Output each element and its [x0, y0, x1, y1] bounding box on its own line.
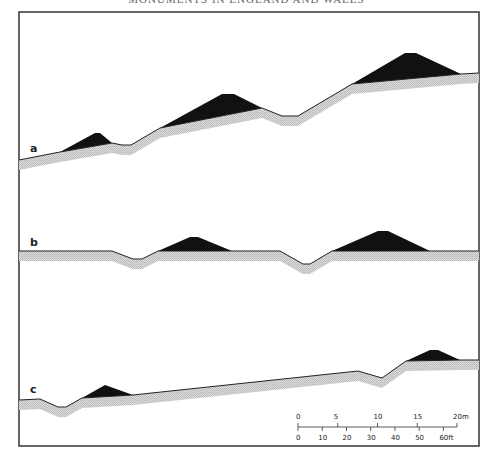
scale-metric-label: 5 [334, 413, 338, 421]
subsoil-band [19, 251, 479, 274]
mound [332, 231, 430, 251]
panel-label-a: a [30, 142, 37, 155]
scale-imperial-label: 50 [415, 434, 424, 442]
scale-imperial-label: 30 [367, 434, 376, 442]
subsoil-band [19, 360, 479, 417]
scale-metric-label: 20m [453, 413, 469, 421]
mound [406, 350, 460, 361]
scale-imperial-label: 0 [296, 434, 300, 442]
scale-imperial-label: 40 [391, 434, 400, 442]
panel-label-b: b [30, 236, 38, 249]
panel-c [19, 350, 479, 417]
panel-b [19, 231, 479, 274]
subsoil-band [19, 73, 479, 170]
mound [158, 237, 232, 251]
scale-bar: 05101520m0102030405060ft [296, 413, 469, 442]
scale-imperial-label: 10 [318, 434, 327, 442]
panel-a [19, 53, 479, 170]
scale-metric-label: 0 [296, 413, 300, 421]
scale-imperial-label: 20 [342, 434, 351, 442]
cross-section-diagram: 05101520m0102030405060ft a b c [0, 0, 493, 460]
scale-metric-label: 15 [413, 413, 422, 421]
scale-imperial-label: 60ft [439, 434, 453, 442]
scale-metric-label: 10 [374, 413, 383, 421]
panel-label-c: c [30, 383, 37, 396]
